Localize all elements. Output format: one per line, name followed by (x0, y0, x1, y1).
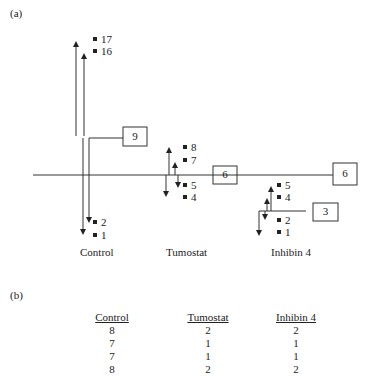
point-label: 2 (101, 216, 107, 228)
table-cell: 2 (256, 363, 336, 376)
point-label: 5 (285, 179, 291, 191)
point-label: 8 (191, 141, 197, 153)
column-header: Tumostat (168, 311, 248, 324)
point-label: 7 (191, 154, 197, 166)
group-label-control: Control (80, 246, 114, 258)
table-cell: 7 (72, 337, 152, 350)
table-cell: 1 (256, 350, 336, 363)
group-label-tumostat: Tumostat (166, 246, 207, 258)
table-cell: 2 (168, 363, 248, 376)
table-cell: 8 (72, 363, 152, 376)
point-label: 4 (285, 191, 291, 203)
point-label: 16 (101, 45, 112, 57)
control-box-value: 9 (123, 130, 147, 142)
point-label: 2 (285, 214, 291, 226)
point-label: 5 (191, 179, 197, 191)
tree-diagram (0, 0, 372, 270)
point-label: 1 (101, 229, 107, 241)
table-cell: 1 (168, 337, 248, 350)
point-label: 4 (191, 191, 197, 203)
column-header: Control (72, 311, 152, 324)
group-label-inhibin: Inhibin 4 (271, 246, 311, 258)
point-label: 1 (285, 226, 291, 238)
table-column-control: Control 8 7 7 8 (72, 311, 152, 376)
table-cell: 2 (256, 324, 336, 337)
table-column-inhibin: Inhibin 4 2 1 1 2 (256, 311, 336, 376)
inhibin-box-value: 3 (313, 205, 338, 217)
root-box-value: 6 (333, 167, 357, 179)
point-label: 17 (101, 33, 112, 45)
table-cell: 7 (72, 350, 152, 363)
table-cell: 1 (168, 350, 248, 363)
table-cell: 8 (72, 324, 152, 337)
table-cell: 1 (256, 337, 336, 350)
tumostat-box-value: 6 (213, 168, 237, 180)
table-column-tumostat: Tumostat 2 1 1 2 (168, 311, 248, 376)
column-header: Inhibin 4 (256, 311, 336, 324)
table-cell: 2 (168, 324, 248, 337)
panel-b-label: (b) (10, 289, 23, 301)
